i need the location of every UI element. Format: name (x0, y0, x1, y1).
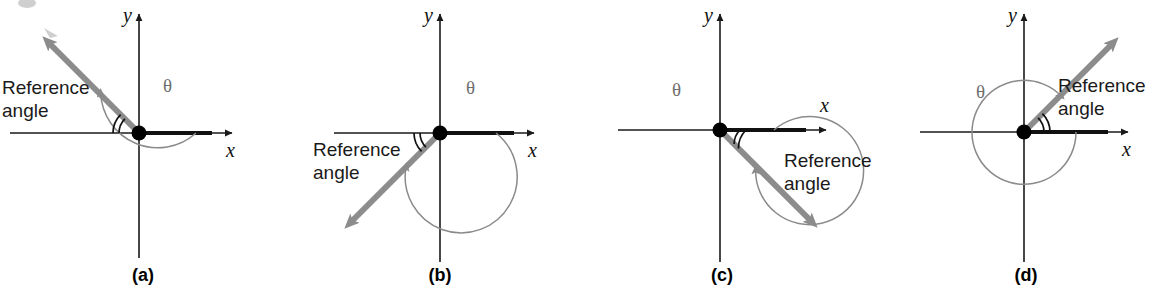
x-axis-label-d: x (1121, 138, 1131, 160)
reference-angle-label-b-line1: Reference (313, 139, 401, 160)
theta-label-a: θ (163, 75, 172, 96)
y-axis-label-a: y (121, 4, 132, 27)
reference-angle-label-c-line2: angle (784, 173, 831, 194)
origin-dot-d (1017, 125, 1032, 140)
reference-angle-figure: x y θ Reference angle (a) x y θ Referenc… (0, 0, 1172, 293)
x-axis-label-c: x (819, 94, 829, 116)
theta-sweep-arc-a (101, 93, 196, 148)
reference-angle-arc-inner-b (420, 133, 426, 147)
reference-angle-label-d-line2: angle (1058, 98, 1105, 119)
panel-tag-a: (a) (132, 265, 154, 285)
theta-label-c: θ (672, 79, 681, 100)
reference-angle-label-a-line2: angle (2, 100, 49, 121)
panel-b: x y θ Reference angle (b) (313, 4, 537, 285)
y-axis-label-d: y (1006, 4, 1017, 27)
x-axis-label-b: x (527, 139, 537, 161)
reference-angle-label-d-line1: Reference (1058, 75, 1146, 96)
origin-dot-c (713, 123, 728, 138)
reference-angle-label-a-line1: Reference (2, 77, 90, 98)
panel-d: x y θ Reference angle (d) (920, 4, 1146, 285)
panel-c: x y θ Reference angle (c) (618, 4, 872, 285)
theta-label-d: θ (976, 81, 985, 102)
reference-angle-arc-inner-a (119, 119, 125, 133)
y-axis-label-b: y (422, 4, 433, 27)
origin-dot-b (433, 126, 448, 141)
y-axis-label-c: y (702, 4, 713, 27)
reference-angle-label-c-line1: Reference (784, 150, 872, 171)
reference-angle-arc-inner-d (1038, 118, 1044, 132)
panel-tag-c: (c) (711, 265, 733, 285)
origin-dot-a (132, 126, 147, 141)
panel-a: x y θ Reference angle (a) (2, 4, 235, 285)
theta-label-b: θ (466, 77, 475, 98)
reference-angle-label-b-line2: angle (313, 162, 360, 183)
x-axis-label-a: x (225, 139, 235, 161)
cropped-text-smudge (18, 0, 58, 38)
panel-tag-b: (b) (429, 265, 452, 285)
panel-tag-d: (d) (1015, 265, 1038, 285)
